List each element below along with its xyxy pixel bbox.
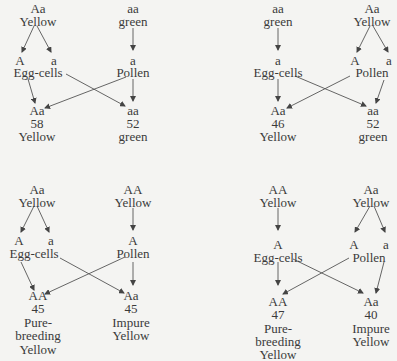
- pollen-label: Pollen: [116, 247, 149, 260]
- female-phenotype: Yellow: [20, 15, 57, 28]
- pollen-label: Pollen: [355, 66, 388, 79]
- offspring-2-phenotype: green: [359, 130, 388, 143]
- offspring-1-phenotype-line-3: Yellow: [260, 348, 297, 361]
- offspring-1-phenotype: Yellow: [19, 130, 56, 143]
- offspring-2-phenotype-line-2: Yellow: [113, 329, 150, 342]
- male-phenotype: Yellow: [353, 196, 390, 209]
- offspring-2-phenotype: green: [119, 130, 148, 143]
- offspring-1-phenotype-line-3: Yellow: [20, 343, 57, 356]
- arrows-layer: [0, 0, 397, 361]
- male-phenotype: Yellow: [354, 15, 391, 28]
- arrow-pollen-parent-to-a: [373, 26, 388, 52]
- egg-label: Egg-cells: [9, 247, 58, 260]
- arrow-pollen-to-AA: [45, 257, 125, 294]
- arrow-egg-a-to-Aa: [60, 258, 124, 293]
- pollen-label: Pollen: [352, 251, 385, 264]
- female-phenotype: Yellow: [260, 196, 297, 209]
- egg-label: Egg-cells: [13, 66, 62, 79]
- arrow-pollen-to-Aa: [45, 77, 126, 108]
- pollen-label: Pollen: [116, 66, 149, 79]
- offspring-2-phenotype-line-2: Yellow: [353, 335, 390, 348]
- arrow-egg-to-aa: [295, 76, 366, 106]
- egg-label: Egg-cells: [253, 66, 302, 79]
- female-phenotype: green: [264, 15, 293, 28]
- male-phenotype: green: [119, 15, 148, 28]
- offspring-1-count: 45: [32, 302, 45, 315]
- offspring-1-phenotype: Yellow: [260, 130, 297, 143]
- offspring-1-count: 47: [272, 308, 285, 321]
- arrow-pollen-to-Aa: [376, 262, 384, 293]
- male-phenotype: Yellow: [115, 196, 152, 209]
- arrow-egg-A-to-AA: [21, 262, 34, 290]
- arrow-egg-A-to-Aa: [28, 79, 35, 103]
- female-phenotype: Yellow: [19, 196, 56, 209]
- arrow-pollen-parent-to-A: [357, 26, 370, 52]
- offspring-2-count: 45: [125, 302, 138, 315]
- offspring-2-count: 40: [365, 308, 378, 321]
- offspring-1-phenotype-line-2: breeding: [15, 329, 60, 342]
- arrow-parent-to-egg-a: [37, 26, 51, 52]
- arrow-pollen-to-Aa: [287, 76, 350, 108]
- egg-label: Egg-cells: [253, 251, 302, 264]
- arrow-pollen-to-aa: [376, 80, 384, 103]
- arrow-parent-to-egg-A: [22, 26, 34, 52]
